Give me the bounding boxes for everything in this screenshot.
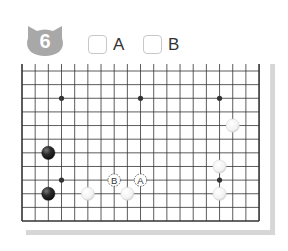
board-shadow-right xyxy=(270,64,275,235)
marker-label-b: B xyxy=(111,175,117,186)
hoshi-point xyxy=(217,96,222,101)
white-stone xyxy=(121,187,134,200)
marker-label-a: A xyxy=(137,175,144,186)
white-stone xyxy=(213,160,226,173)
white-stone xyxy=(81,187,94,200)
white-stone xyxy=(213,187,226,200)
hoshi-point xyxy=(217,178,222,183)
black-stone xyxy=(42,187,55,200)
black-stone xyxy=(42,146,55,159)
go-board-svg[interactable]: BA xyxy=(0,0,288,251)
hoshi-point xyxy=(59,96,64,101)
board-shadow-bottom xyxy=(26,230,275,235)
hoshi-point xyxy=(138,96,143,101)
go-board[interactable]: BA xyxy=(0,0,288,251)
white-stone xyxy=(226,119,239,132)
hoshi-point xyxy=(59,178,64,183)
